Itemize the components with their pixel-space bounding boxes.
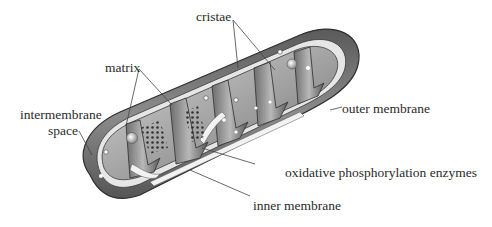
- label-outer-membrane: outer membrane: [342, 102, 430, 116]
- label-cristae: cristae: [196, 10, 231, 24]
- inner-membrane-leader: [190, 170, 250, 196]
- label-oxidative-phosphorylation-enzymes: oxidative phosphorylation enzymes: [285, 166, 477, 180]
- label-inner-membrane: inner membrane: [253, 199, 341, 213]
- outer-membrane-leader: [330, 107, 342, 110]
- label-intermembrane-space-line1: intermembrane: [20, 108, 102, 122]
- label-intermembrane-space-line2: space: [48, 124, 78, 138]
- mitochondrion-diagram: cristae matrix intermembrane space outer…: [0, 0, 492, 227]
- label-matrix: matrix: [105, 61, 140, 75]
- cristae-leader-left: [233, 20, 238, 68]
